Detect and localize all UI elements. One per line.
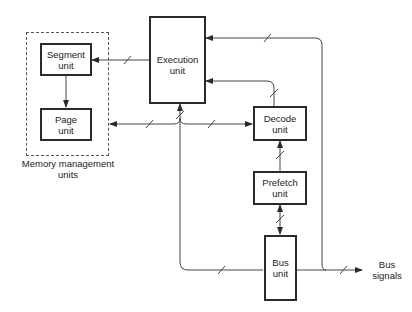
execution-unit-line2: unit <box>170 65 185 76</box>
bus-signals-label: Bus signals <box>364 259 410 281</box>
segment-unit: Segment unit <box>40 43 92 76</box>
decode-unit-line2: unit <box>272 124 287 135</box>
bus-unit-line2: unit <box>273 268 288 279</box>
mmu-label-line1: Memory management <box>22 158 114 169</box>
bus-unit-line1: Bus <box>272 257 288 268</box>
page-unit-line2: unit <box>58 125 73 136</box>
execution-unit-line1: Execution <box>157 54 199 65</box>
edge-decode-execution <box>206 81 274 106</box>
memory-management-label: Memory management units <box>6 158 130 180</box>
segment-unit-line1: Segment <box>47 49 85 60</box>
decode-unit-line1: Decode <box>264 113 297 124</box>
mmu-label-line2: units <box>58 169 78 180</box>
prefetch-unit: Prefetch unit <box>253 171 307 205</box>
bus-unit: Bus unit <box>264 235 297 301</box>
edge-page-decode <box>110 118 252 124</box>
segment-unit-line2: unit <box>58 60 73 71</box>
page-unit: Page unit <box>40 108 92 141</box>
edge-bus-execution <box>180 104 263 270</box>
page-unit-line1: Page <box>55 114 77 125</box>
bus-signals-line1: Bus <box>379 259 395 270</box>
bus-signals-line2: signals <box>372 270 402 281</box>
prefetch-unit-line1: Prefetch <box>262 177 297 188</box>
execution-unit: Execution unit <box>149 16 206 104</box>
decode-unit: Decode unit <box>253 106 307 141</box>
prefetch-unit-line2: unit <box>272 188 287 199</box>
